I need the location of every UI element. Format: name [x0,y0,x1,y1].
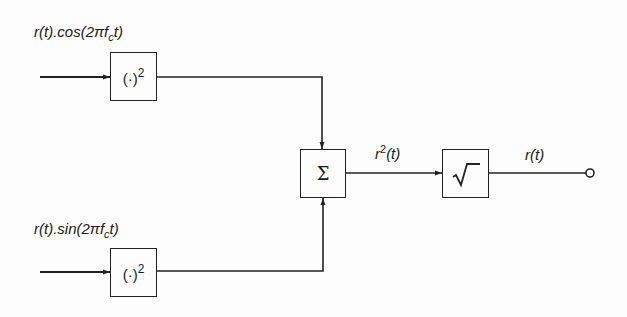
square-block-top-label: (·)2 [123,66,145,87]
wire-bottom-to-summer [157,198,323,271]
output-terminal-icon [586,169,594,177]
input-label-sin-suffix: t) [110,220,119,237]
wire-top-to-summer [157,77,322,149]
input-label-sin: r(t).sin(2πfct) [34,221,119,240]
square-block-bottom: (·)2 [110,248,157,297]
sqrt-block [442,149,489,198]
signal-label-output: r(t) [525,147,544,162]
input-label-cos: r(t).cos(2πfct) [34,24,123,43]
signal-label-r-squared: r2(t) [375,144,400,161]
square-block-bottom-label: (·)2 [123,262,145,283]
input-label-cos-prefix: r(t).cos(2πf [34,23,108,40]
square-block-top: (·)2 [110,52,157,101]
input-label-sin-prefix: r(t).sin(2πf [34,220,104,237]
sigma-icon: Σ [317,163,330,184]
sqrt-icon [451,160,481,188]
summer-block: Σ [300,149,346,198]
input-label-cos-suffix: t) [114,23,123,40]
